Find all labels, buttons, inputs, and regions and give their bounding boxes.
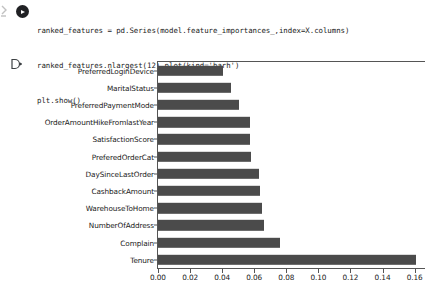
y-axis-tick-label: DaySinceLastOrder (86, 169, 154, 178)
y-axis-tick-label: PreferedOrderCat (92, 152, 154, 161)
x-axis-tick-mark (254, 269, 255, 273)
x-axis-tick-label: 0.00 (150, 273, 166, 282)
bar (158, 83, 231, 93)
y-axis-tick-label: CashbackAmount (91, 186, 154, 195)
run-cell-button[interactable] (16, 5, 29, 18)
bar-row: CashbackAmount (0, 182, 431, 199)
bar (158, 100, 239, 110)
x-axis-tick-label: 0.16 (407, 273, 423, 282)
x-axis-tick-label: 0.10 (310, 273, 326, 282)
bar (158, 255, 416, 265)
x-axis-tick-mark (286, 269, 287, 273)
bar (158, 65, 223, 75)
x-axis-tick-label: 0.02 (182, 273, 198, 282)
bar (158, 169, 259, 179)
y-axis-tick-label: OrderAmountHikeFromlastYear (45, 118, 154, 127)
bar (158, 117, 250, 127)
bar-row: Complain (0, 234, 431, 251)
notebook-cell: ranked_features = pd.Series(model.featur… (0, 0, 431, 289)
bar-row: PreferedOrderCat (0, 148, 431, 165)
x-axis-tick-label: 0.04 (214, 273, 230, 282)
y-axis-tick-label: Tenure (130, 255, 154, 264)
bar-row: DaySinceLastOrder (0, 165, 431, 182)
y-axis-tick-label: SatisfactionScore (92, 135, 154, 144)
x-axis-tick-label: 0.12 (343, 273, 359, 282)
drag-handle-icon[interactable] (0, 3, 14, 19)
y-axis-tick-label: NumberOfAddress (89, 221, 154, 230)
x-axis-tick-label: 0.14 (375, 273, 391, 282)
x-axis-tick-mark (415, 269, 416, 273)
y-axis-tick-label: PreferredLoginDevice (78, 66, 154, 75)
bar-row: NumberOfAddress (0, 217, 431, 234)
bar (158, 134, 250, 144)
bar-row: Tenure (0, 251, 431, 268)
y-axis-tick-label: MaritalStatus (107, 83, 154, 92)
bar-row: WarehouseToHome (0, 200, 431, 217)
bar-row: SatisfactionScore (0, 131, 431, 148)
bar (158, 203, 262, 213)
bar (158, 220, 264, 230)
x-axis-tick-label: 0.06 (246, 273, 262, 282)
bar (158, 186, 260, 196)
bar (158, 237, 280, 247)
bar-row: MaritalStatus (0, 79, 431, 96)
x-axis-tick-mark (318, 269, 319, 273)
y-axis-tick-label: Complain (120, 238, 154, 247)
y-axis-tick-label: PreferredPaymentMode (71, 100, 154, 109)
x-axis-tick-mark (383, 269, 384, 273)
bar-row: PreferredLoginDevice (0, 62, 431, 79)
x-axis-tick-mark (222, 269, 223, 273)
play-icon (21, 10, 25, 14)
y-axis-tick-label: WarehouseToHome (86, 204, 154, 213)
matplotlib-figure: PreferredLoginDeviceMaritalStatusPreferr… (0, 56, 431, 289)
x-axis-tick-mark (350, 269, 351, 273)
bar (158, 151, 251, 161)
x-axis-tick-label: 0.08 (278, 273, 294, 282)
bar-row: PreferredPaymentMode (0, 96, 431, 113)
x-axis-tick-mark (190, 269, 191, 273)
x-axis-tick-mark (158, 269, 159, 273)
bar-row: OrderAmountHikeFromlastYear (0, 114, 431, 131)
code-line: ranked_features = pd.Series(model.featur… (37, 25, 429, 37)
